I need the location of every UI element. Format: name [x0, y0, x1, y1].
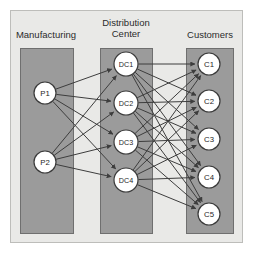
node-label-DC3: DC3 [119, 138, 133, 147]
node-DC4[interactable]: DC4 [114, 168, 138, 192]
node-label-C5: C5 [204, 210, 215, 219]
node-label-C1: C1 [204, 60, 214, 69]
node-label-C4: C4 [204, 173, 215, 182]
node-label-C2: C2 [204, 97, 214, 106]
node-C2[interactable]: C2 [198, 90, 220, 112]
stage-label-manufacturing: Manufacturing [16, 29, 76, 40]
node-DC3[interactable]: DC3 [114, 130, 138, 154]
node-P1[interactable]: P1 [34, 82, 56, 104]
node-label-C3: C3 [204, 135, 214, 144]
node-label-P2: P2 [40, 158, 50, 167]
node-C3[interactable]: C3 [198, 128, 220, 150]
node-label-DC4: DC4 [119, 176, 133, 185]
network-diagram: P1P2DC1DC2DC3DC4C1C2C3C4C5 Manufacturing… [0, 0, 253, 253]
node-label-P1: P1 [40, 89, 50, 98]
stage-box-manufacturing[interactable] [21, 49, 74, 234]
node-C5[interactable]: C5 [198, 203, 220, 225]
diagram-canvas: P1P2DC1DC2DC3DC4C1C2C3C4C5 Manufacturing… [0, 0, 253, 253]
node-C4[interactable]: C4 [198, 166, 220, 188]
stage-label-customers: Customers [187, 29, 233, 40]
node-C1[interactable]: C1 [198, 53, 220, 75]
node-label-DC1: DC1 [119, 60, 133, 69]
node-P2[interactable]: P2 [34, 151, 56, 173]
node-label-DC2: DC2 [119, 99, 133, 108]
node-DC1[interactable]: DC1 [114, 52, 138, 76]
node-DC2[interactable]: DC2 [114, 91, 138, 115]
